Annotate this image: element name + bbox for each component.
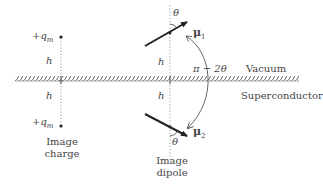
top-charge-dot	[59, 35, 62, 38]
dipole-lower-h-label: h	[158, 91, 164, 101]
bottom-charge-dot	[59, 124, 62, 127]
mu2-label: μ2	[193, 126, 206, 140]
superconductor-surface	[15, 76, 299, 81]
charge-lower-h-label: h	[46, 91, 52, 101]
image-charge-axis	[59, 35, 63, 127]
pi-minus-2theta-label: π − 2θ	[193, 64, 227, 74]
image-dipole-caption: Image dipole	[152, 156, 192, 178]
dipole-upper-h-label: h	[158, 57, 164, 67]
pi-minus-2theta-arc	[186, 36, 208, 128]
mu2-arrow	[145, 114, 187, 136]
image-method-diagram: +qm h h +qm Image charge θ μ1 h π − 2θ V…	[0, 0, 323, 185]
theta1-label: θ	[173, 8, 179, 18]
theta2-label: θ	[172, 137, 178, 147]
top-charge-label: +qm	[32, 31, 53, 44]
bottom-charge-label: +qm	[32, 117, 53, 130]
charge-upper-h-label: h	[46, 56, 52, 66]
image-charge-caption: Image charge	[42, 137, 82, 159]
vacuum-label: Vacuum	[246, 64, 286, 74]
superconductor-label: Superconductor	[241, 91, 323, 101]
mu1-label: μ1	[193, 27, 206, 41]
mu1-arrow	[145, 22, 187, 46]
